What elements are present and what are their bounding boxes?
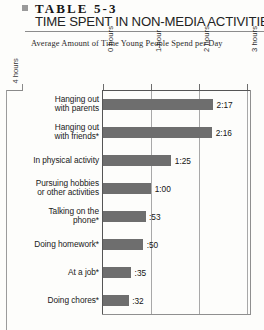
x-axis-tick-label-3: 3 hours xyxy=(250,26,259,52)
category-label: Doing chores* xyxy=(0,296,99,306)
bar-value-label: 2:16 xyxy=(216,128,232,138)
category-label-line: phone* xyxy=(0,216,99,226)
plot-border-right xyxy=(250,90,251,315)
category-label-line: Doing chores* xyxy=(0,296,99,306)
plot-border-left xyxy=(102,90,103,315)
table-figure: TABLE 5-3 TIME SPENT IN NON-MEDIA ACTIVI… xyxy=(0,0,264,330)
category-label: Hanging outwith parents xyxy=(0,95,99,114)
bar-value-label: 2:17 xyxy=(217,100,233,110)
bar xyxy=(103,211,146,222)
bar-value-label: 1:00 xyxy=(155,184,171,194)
category-label-line: At a job* xyxy=(0,268,99,278)
bar-value-label: :50 xyxy=(147,240,159,250)
bar xyxy=(103,183,151,194)
category-label: Hanging outwith friends* xyxy=(0,123,99,142)
category-label: Doing homework* xyxy=(0,240,99,250)
x-axis-tick-label-0: 0 hours xyxy=(106,26,115,52)
artifact-axis-label: 4 hours xyxy=(11,40,20,84)
bar-value-label: :32 xyxy=(132,296,144,306)
category-label-line: In physical activity xyxy=(0,156,99,166)
x-axis-tick-label-1: 1 hour xyxy=(154,30,163,52)
artifact-rule-horizontal xyxy=(6,90,23,91)
category-label-line: with friends* xyxy=(0,132,99,142)
category-label: Talking on thephone* xyxy=(0,207,99,226)
plot-border-top xyxy=(102,90,251,91)
bar xyxy=(103,127,212,138)
gridline-2h xyxy=(199,90,200,315)
plot-border-bottom xyxy=(102,314,251,315)
category-label: Pursuing hobbiesor other activities xyxy=(0,179,99,198)
category-label: At a job* xyxy=(0,268,99,278)
chart-subtitle: Average Amount of Time Young People Spen… xyxy=(31,39,223,48)
category-label: In physical activity xyxy=(0,156,99,166)
category-label-line: or other activities xyxy=(0,188,99,198)
page-title: TIME SPENT IN NON-MEDIA ACTIVITIES xyxy=(35,14,264,29)
bar xyxy=(103,295,129,306)
gridline-1h xyxy=(151,90,152,315)
category-label-line: with parents xyxy=(0,104,99,114)
header-divider xyxy=(25,31,264,32)
square-bullet-icon xyxy=(22,5,28,11)
category-label-line: Doing homework* xyxy=(0,240,99,250)
bar xyxy=(103,267,131,278)
gridline-3h xyxy=(247,90,248,315)
x-axis-tick-label-2: 2 hours xyxy=(202,26,211,52)
bar-value-label: 1:25 xyxy=(175,156,191,166)
bar-value-label: :53 xyxy=(149,212,161,222)
bar xyxy=(103,155,171,166)
bar xyxy=(103,239,143,250)
bar xyxy=(103,99,213,110)
bar-value-label: :35 xyxy=(135,268,147,278)
